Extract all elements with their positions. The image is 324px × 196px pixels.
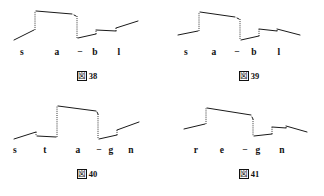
phoneme-label: s	[13, 145, 17, 155]
figure-mark-icon: 図	[239, 169, 249, 179]
phoneme-label: a	[55, 47, 60, 57]
figure-caption-41: 図41	[162, 160, 324, 188]
figure-number: 41	[251, 169, 260, 179]
phoneme-label: g	[256, 145, 261, 155]
figure-grid: s a − b l 図38	[0, 0, 324, 196]
figure-panel-40: s t a − g n 図40	[0, 98, 162, 196]
phoneme-label: −	[242, 145, 248, 155]
contour-solid-lines-38	[14, 11, 138, 40]
pitch-contour-40	[0, 98, 162, 144]
contour-dotted-transitions-40	[36, 106, 117, 139]
contour-solid-lines-40	[14, 106, 139, 139]
phoneme-label: n	[128, 145, 133, 155]
phoneme-label: r	[194, 145, 198, 155]
phoneme-label: l	[278, 47, 281, 57]
phoneme-label: s	[20, 47, 24, 57]
figure-panel-41: r e − g n 図41	[162, 98, 324, 196]
phoneme-label: l	[118, 47, 121, 57]
phoneme-label: t	[43, 145, 46, 155]
figure-caption-40: 図40	[0, 160, 162, 188]
contour-dotted-transitions-39	[199, 12, 277, 40]
phoneme-label: a	[76, 145, 81, 155]
figure-panel-38: s a − b l 図38	[0, 0, 162, 98]
phoneme-row-40: s t a − g n	[0, 142, 162, 158]
pitch-contour-41	[162, 98, 324, 144]
phoneme-row-39: s a − b l	[162, 44, 324, 60]
pitch-contour-38	[0, 0, 162, 46]
contour-svg-41	[162, 98, 324, 144]
figure-number: 38	[89, 71, 98, 81]
phoneme-label: −	[234, 47, 240, 57]
figure-mark-icon: 図	[77, 71, 87, 81]
contour-svg-39	[162, 0, 324, 46]
contour-dotted-transitions-38	[35, 11, 116, 38]
figure-number: 40	[89, 169, 98, 179]
pitch-contour-39	[162, 0, 324, 46]
contour-svg-38	[0, 0, 162, 46]
phoneme-label: b	[251, 47, 256, 57]
phoneme-label: −	[77, 47, 83, 57]
phoneme-label: g	[109, 145, 114, 155]
figure-caption-39: 図39	[162, 62, 324, 90]
phoneme-row-38: s a − b l	[0, 44, 162, 60]
phoneme-label: −	[96, 145, 102, 155]
figure-number: 39	[251, 71, 260, 81]
figure-mark-icon: 図	[77, 169, 87, 179]
contour-solid-lines-41	[184, 108, 307, 136]
phoneme-label: s	[184, 47, 188, 57]
contour-dotted-transitions-41	[206, 108, 286, 136]
figure-mark-icon: 図	[239, 71, 249, 81]
figure-caption-38: 図38	[0, 62, 162, 90]
phoneme-label: a	[212, 47, 217, 57]
phoneme-label: n	[279, 145, 284, 155]
contour-solid-lines-39	[178, 12, 300, 40]
phoneme-label: e	[220, 145, 224, 155]
phoneme-label: b	[92, 47, 97, 57]
phoneme-row-41: r e − g n	[162, 142, 324, 158]
figure-panel-39: s a − b l 図39	[162, 0, 324, 98]
contour-svg-40	[0, 98, 162, 144]
